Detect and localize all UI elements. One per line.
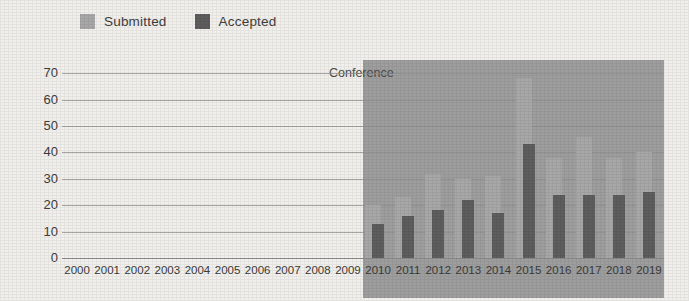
y-axis-tick-label: 50: [18, 118, 58, 133]
bar-group: [363, 60, 393, 258]
y-axis-tick-label: 0: [18, 250, 58, 265]
bar-group: [604, 60, 634, 258]
bar-accepted: [372, 224, 384, 258]
bar-accepted: [613, 195, 625, 258]
y-axis-tick-label: 40: [18, 144, 58, 159]
bar-group: [483, 60, 513, 258]
x-axis-line: [62, 258, 664, 259]
bar-accepted: [462, 200, 474, 258]
chart-legend: Submitted Accepted: [80, 14, 276, 29]
x-axis-tick-label: 2014: [486, 264, 512, 276]
bar-group: [423, 60, 453, 258]
bar-group: [634, 60, 664, 258]
x-axis-tick-label: 2010: [365, 264, 391, 276]
bar-series-container: [62, 60, 664, 258]
bar-group: [514, 60, 544, 258]
legend-swatch-submitted-icon: [80, 14, 95, 29]
chart-page: Submitted Accepted Conference 0102030405…: [0, 0, 689, 301]
x-axis-tick-label: 2009: [335, 264, 361, 276]
bar-accepted: [432, 210, 444, 258]
x-axis-tick-label: 2013: [456, 264, 482, 276]
bar-group: [544, 60, 574, 258]
x-axis-tick-label: 2002: [124, 264, 150, 276]
legend-label-submitted: Submitted: [104, 14, 167, 29]
x-axis-tick-label: 2004: [185, 264, 211, 276]
legend-label-accepted: Accepted: [219, 14, 277, 29]
y-axis-tick-label: 30: [18, 171, 58, 186]
bar-accepted: [492, 213, 504, 258]
plot-area: Conference 010203040506070: [62, 60, 664, 258]
bar-accepted: [523, 144, 535, 258]
bar-accepted: [402, 216, 414, 258]
x-axis-tick-label: 2006: [245, 264, 271, 276]
x-axis-tick-label: 2008: [305, 264, 331, 276]
y-axis-tick-label: 20: [18, 197, 58, 212]
legend-item-submitted: Submitted: [80, 14, 167, 29]
bar-accepted: [643, 192, 655, 258]
x-axis-tick-label: 2001: [94, 264, 120, 276]
x-axis-tick-label: 2017: [576, 264, 602, 276]
x-axis-tick-labels: 2000200120022003200420052006200720082009…: [62, 264, 664, 280]
x-axis-tick-label: 2015: [516, 264, 542, 276]
y-axis-tick-label: 10: [18, 224, 58, 239]
y-axis-tick-label: 70: [18, 65, 58, 80]
bar-group: [453, 60, 483, 258]
x-axis-tick-label: 2019: [636, 264, 662, 276]
bar-accepted: [583, 195, 595, 258]
x-axis-tick-label: 2000: [64, 264, 90, 276]
x-axis-tick-label: 2005: [215, 264, 241, 276]
x-axis-tick-label: 2012: [425, 264, 451, 276]
y-axis-tick-label: 60: [18, 92, 58, 107]
bar-group: [574, 60, 604, 258]
x-axis-tick-label: 2007: [275, 264, 301, 276]
bar-group: [393, 60, 423, 258]
x-axis-tick-label: 2011: [396, 264, 421, 276]
x-axis-tick-label: 2016: [546, 264, 572, 276]
x-axis-tick-label: 2018: [606, 264, 632, 276]
x-axis-tick-label: 2003: [155, 264, 181, 276]
bar-accepted: [553, 195, 565, 258]
legend-swatch-accepted-icon: [195, 14, 210, 29]
legend-item-accepted: Accepted: [195, 14, 277, 29]
